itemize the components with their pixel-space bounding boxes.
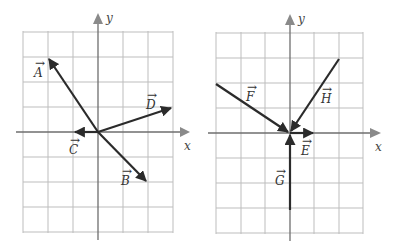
left-diagram: x y A → B → C → D → [16, 11, 191, 240]
vector-e-arrow-icon: → [302, 134, 312, 148]
vector-g-arrow-icon: → [276, 164, 286, 178]
right-y-axis-label: y [297, 12, 305, 26]
left-y-axis-label: y [105, 11, 113, 25]
right-y-axis-arrow-icon [285, 14, 295, 25]
vector-d-arrow-icon: → [147, 88, 157, 102]
left-x-axis-label: x [184, 139, 191, 153]
right-x-axis-arrow-icon [370, 128, 381, 138]
vector-diagram-canvas: x y A → B → C → D → [0, 0, 397, 249]
right-x-axis-label: x [375, 140, 382, 154]
vector-h-arrow-icon: → [322, 82, 332, 96]
left-y-axis-arrow-icon [93, 13, 103, 24]
vector-d [98, 108, 171, 132]
vector-b-arrow-icon: → [122, 164, 132, 178]
vector-a-arrow-icon: → [35, 56, 45, 70]
left-x-axis-arrow-icon [180, 127, 190, 137]
right-diagram: x y E → F → G → H → [208, 12, 382, 241]
vector-f-arrow-icon: → [247, 80, 257, 94]
vector-c-arrow-icon: → [70, 133, 80, 147]
